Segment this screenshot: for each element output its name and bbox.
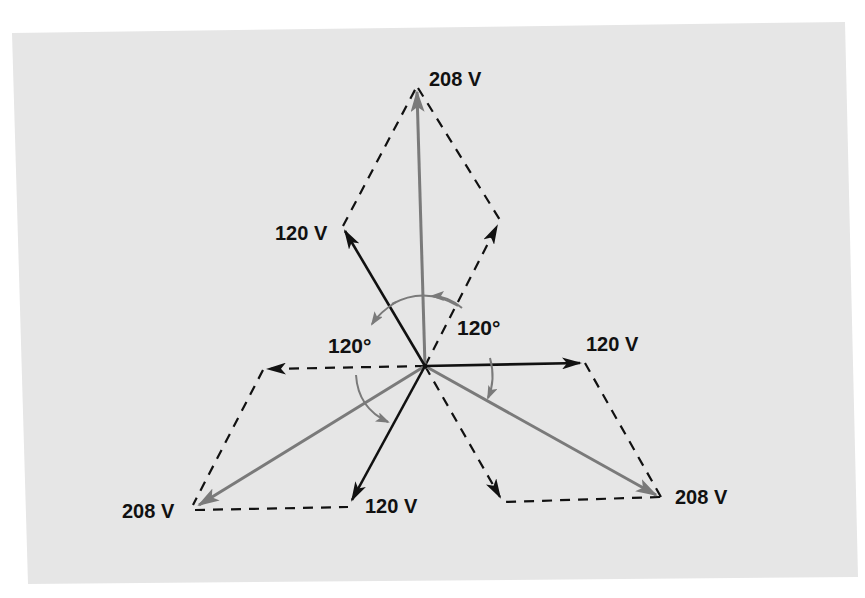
- origin-point: [423, 364, 428, 369]
- label-upper-left-120v: 120 V: [275, 222, 328, 244]
- label-angle-left: 120°: [328, 334, 371, 357]
- label-right-120v: 120 V: [586, 333, 639, 355]
- label-angle-right: 120°: [457, 316, 500, 339]
- label-bottom-120v: 120 V: [365, 495, 418, 517]
- label-lower-right-208v: 208 V: [675, 486, 728, 508]
- label-top-208v: 208 V: [429, 68, 482, 90]
- three-phase-vector-diagram: 208 V 120 V 120 V 208 V 120 V 208 V 120°…: [0, 0, 865, 598]
- label-lower-left-208v: 208 V: [122, 500, 175, 522]
